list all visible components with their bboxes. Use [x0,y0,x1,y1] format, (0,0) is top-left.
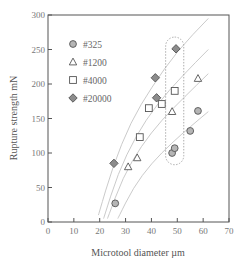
fit-curve [98,18,208,215]
x-tick-label: 40 [147,226,157,236]
y-tick-label: 0 [41,217,46,227]
legend-triangle-icon [69,58,76,65]
legend-square-icon [70,77,77,84]
square-data-point [145,105,152,112]
y-tick-label: 200 [32,79,46,89]
legend-label: #1200 [83,58,107,68]
x-tick-label: 70 [225,226,235,236]
y-tick-label: 100 [32,148,46,158]
y-tick-label: 250 [32,45,46,55]
fit-curve [118,112,209,219]
x-tick-label: 60 [199,226,209,236]
data-points [110,45,202,207]
x-tick-label: 50 [173,226,183,236]
legend-circle-icon [70,41,77,48]
x-tick-label: 30 [121,226,131,236]
x-tick-label: 10 [69,226,79,236]
circle-data-point [195,108,202,115]
legend-diamond-icon [69,94,77,102]
legend-label: #325 [83,40,102,50]
square-data-point [158,101,165,108]
circle-data-point [171,145,178,152]
y-tick-label: 150 [32,114,46,124]
diamond-data-point [151,74,159,82]
y-axis-title: Rupture strength mN [8,76,19,160]
axes: 010203040506070050100150200250300 [32,10,235,236]
rupture-strength-chart: 010203040506070050100150200250300 #325#1… [0,0,247,264]
y-tick-label: 300 [32,10,46,20]
legend-label: #4000 [83,76,107,86]
x-tick-label: 0 [46,226,51,236]
circle-data-point [187,128,194,135]
fit-curves [98,18,208,218]
triangle-data-point [194,75,201,82]
x-axis-title: Microtool diameter µm [91,247,185,258]
legend-label: #20000 [83,94,112,104]
circle-data-point [112,200,119,207]
square-data-point [171,88,178,95]
square-data-point [136,134,143,141]
diamond-data-point [172,45,180,53]
triangle-data-point [168,108,175,115]
diamond-data-point [110,159,118,167]
legend: #325#1200#4000#20000 [69,40,112,104]
y-tick-label: 50 [36,183,46,193]
x-tick-label: 20 [95,226,105,236]
